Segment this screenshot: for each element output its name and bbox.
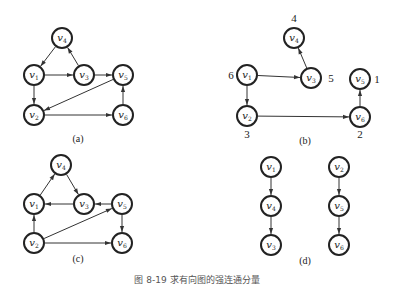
node-v6: v6 <box>113 105 133 125</box>
finish-order-label: 5 <box>328 72 334 84</box>
graph-panel-c: v4v1v3v5v2v6(c) <box>24 155 132 265</box>
finish-order-label: 6 <box>228 69 234 81</box>
node-v6: v6 <box>329 235 349 255</box>
node-v2: v2 <box>24 233 44 253</box>
node-v4: v4 <box>261 196 281 216</box>
node-subscript: 4 <box>295 37 299 44</box>
node-v5: v5 <box>113 65 133 85</box>
node-subscript: 3 <box>85 74 89 81</box>
node-v4: v4 <box>51 155 71 175</box>
edge-v1-to-v4 <box>40 174 54 195</box>
graph-panel-d: v1v4v3v2v5v6(d) <box>261 157 349 267</box>
node-v2: v23 <box>237 106 257 140</box>
edge-v1-to-v3 <box>258 76 300 78</box>
node-v6: v62 <box>350 107 370 140</box>
node-subscript: 6 <box>361 116 365 123</box>
node-subscript: 2 <box>35 242 39 249</box>
node-subscript: 5 <box>124 74 128 81</box>
edge-v3-to-v4 <box>298 48 306 68</box>
node-subscript: 5 <box>361 78 365 85</box>
node-subscript: 5 <box>340 205 344 212</box>
node-v3: v3 <box>74 65 94 85</box>
edge-v3-to-v4 <box>68 48 79 66</box>
node-v3: v3 <box>261 235 281 255</box>
panel-label-b: (b) <box>299 135 311 147</box>
node-v2: v2 <box>24 105 44 125</box>
node-v6: v6 <box>112 233 132 253</box>
finish-order-label: 1 <box>374 73 380 85</box>
edge-v4-to-v3 <box>67 175 79 195</box>
node-subscript: 2 <box>35 114 39 121</box>
finish-order-label: 2 <box>357 128 363 140</box>
finish-order-label: 4 <box>291 12 297 24</box>
node-v1: v1 <box>24 194 44 214</box>
panel-label-a: (a) <box>72 133 83 145</box>
node-v3: v3 <box>74 194 94 214</box>
node-subscript: 3 <box>85 203 89 210</box>
node-v2: v2 <box>329 157 349 177</box>
node-subscript: 2 <box>248 115 252 122</box>
panel-label-d: (d) <box>299 255 311 267</box>
node-v5: v51 <box>350 69 380 89</box>
node-subscript: 4 <box>272 205 276 212</box>
node-subscript: 3 <box>272 244 276 251</box>
node-v1: v16 <box>228 65 257 85</box>
node-subscript: 3 <box>312 77 316 84</box>
node-v1: v1 <box>261 157 281 177</box>
figure-caption: 图 8-19 求有向图的强连通分量 <box>134 274 259 285</box>
node-v5: v5 <box>329 196 349 216</box>
graph-panel-a: v4v1v3v5v2v6(a) <box>24 28 133 145</box>
node-v4: v4 <box>52 28 72 48</box>
node-v5: v5 <box>112 194 132 214</box>
node-subscript: 5 <box>123 203 127 210</box>
node-subscript: 1 <box>35 203 39 210</box>
node-subscript: 1 <box>248 74 252 81</box>
panel-label-c: (c) <box>72 253 83 265</box>
finish-order-label: 3 <box>244 128 250 140</box>
node-subscript: 2 <box>340 166 344 173</box>
node-v4: v44 <box>284 12 304 48</box>
node-subscript: 4 <box>63 37 67 44</box>
graph-panel-b: v44v16v35v51v23v62(b) <box>228 12 380 147</box>
node-subscript: 4 <box>62 164 66 171</box>
node-v3: v35 <box>301 68 334 88</box>
edge-v4-to-v1 <box>41 47 56 66</box>
node-subscript: 6 <box>340 244 344 251</box>
node-subscript: 6 <box>123 242 127 249</box>
edge-v2-to-v6 <box>258 116 349 117</box>
node-v1: v1 <box>24 65 44 85</box>
scc-figure: v4v1v3v5v2v6(a) v44v16v35v51v23v62(b) v4… <box>0 0 394 285</box>
node-subscript: 1 <box>272 166 276 173</box>
node-subscript: 1 <box>35 74 39 81</box>
node-subscript: 6 <box>124 114 128 121</box>
